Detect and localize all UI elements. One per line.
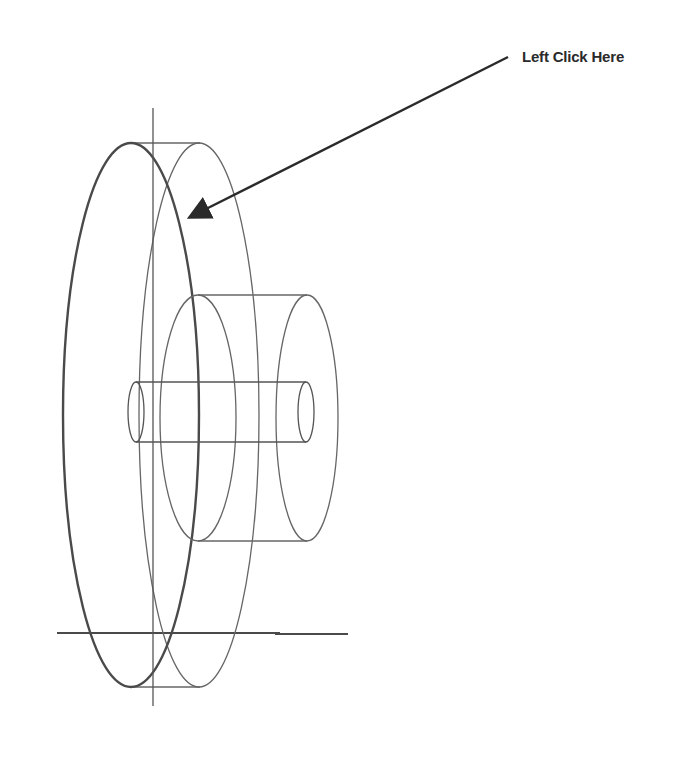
hub[interactable] bbox=[160, 295, 338, 541]
axle[interactable] bbox=[128, 382, 314, 442]
disk-front-face[interactable] bbox=[63, 143, 199, 687]
annotation-label: Left Click Here bbox=[522, 48, 624, 65]
hub-back-face[interactable] bbox=[276, 295, 338, 541]
axle-front-face[interactable] bbox=[128, 382, 144, 442]
disk[interactable] bbox=[63, 143, 259, 687]
cad-wireframe-drawing[interactable] bbox=[0, 0, 677, 762]
axle-back-face[interactable] bbox=[298, 382, 314, 442]
ground-line bbox=[57, 633, 348, 634]
annotation-arrow bbox=[204, 57, 508, 210]
